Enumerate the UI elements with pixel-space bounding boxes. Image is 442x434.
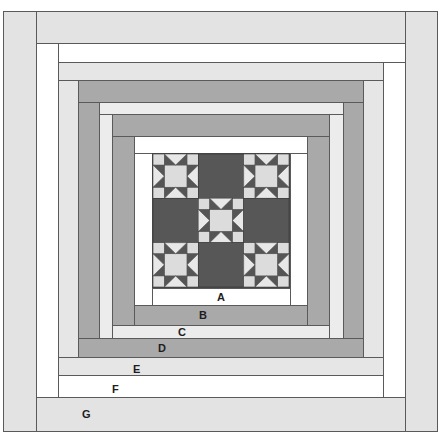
border-a-right [290,153,308,306]
border-a-top [134,136,308,154]
border-e-bottom [58,357,384,376]
label-d: D [158,342,166,354]
center-ohio-star-block [152,153,290,288]
quilt-diagram: A B C D E F G [0,0,442,434]
border-d-top [78,80,364,103]
border-b-bottom [134,305,308,326]
border-c-bottom [112,325,330,339]
label-a: A [217,291,225,303]
border-d-right [343,102,364,358]
border-f-bottom [58,375,384,398]
ohio-star-grid [153,154,289,287]
label-f: F [112,383,119,395]
border-f-top [58,43,406,63]
border-d-left [78,102,100,358]
border-e-left [58,80,79,376]
label-c: C [178,326,186,338]
border-e-top [58,62,384,81]
border-b-right [307,136,330,326]
label-e: E [133,363,140,375]
border-g-left [3,11,37,432]
border-c-right [329,114,344,339]
border-e-right [363,80,384,358]
border-b-left [112,136,135,326]
border-d-bottom [78,338,364,358]
label-b: B [199,309,207,321]
border-f-left [36,43,59,398]
label-g: G [82,408,91,420]
border-c-left [99,114,113,339]
border-b-top [112,114,330,137]
border-g-bottom [36,397,406,432]
border-f-right [383,62,406,398]
border-g-top [36,11,406,44]
border-a-left [134,153,153,306]
border-g-right [405,11,438,432]
